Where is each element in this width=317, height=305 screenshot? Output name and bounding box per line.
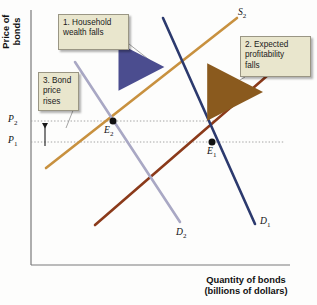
curve-label-D1: D1	[260, 215, 270, 229]
callout-2-line-1: 2. Expected	[245, 40, 306, 50]
price-label-P2: P2	[8, 113, 17, 127]
price-gridlines	[31, 121, 285, 142]
equilibrium-label-E2: E2	[104, 124, 113, 138]
curve-label-S2: S2	[238, 6, 246, 20]
bond-market-figure: Price of bonds Quantity of bonds (billio…	[0, 0, 317, 305]
callout-household-wealth-falls: 1. Household wealth falls	[58, 14, 129, 50]
callout-1-line-2: wealth falls	[63, 28, 124, 38]
callout-1-line-1: 1. Household	[63, 18, 124, 28]
callout-2-line-3: falls	[245, 61, 306, 71]
callout-2-line-2: profitability	[245, 50, 306, 60]
callout-3-line-3: rises	[43, 97, 74, 107]
equilibrium-label-E1: E1	[207, 145, 216, 159]
callout-3-line-1: 3. Bond	[43, 76, 74, 86]
y-axis-title: Price of bonds	[1, 1, 22, 63]
curve-label-D2: D2	[176, 226, 186, 240]
price-label-P1: P1	[8, 134, 17, 148]
x-axis-title: Quantity of bonds (billions of dollars)	[178, 275, 314, 297]
callout-expected-profitability-falls: 2. Expected profitability falls	[240, 36, 311, 77]
callout-bond-price-rises: 3. Bond price rises	[38, 72, 79, 111]
callout-3-line-2: price	[43, 86, 74, 96]
callout-leader-lines	[66, 44, 245, 128]
